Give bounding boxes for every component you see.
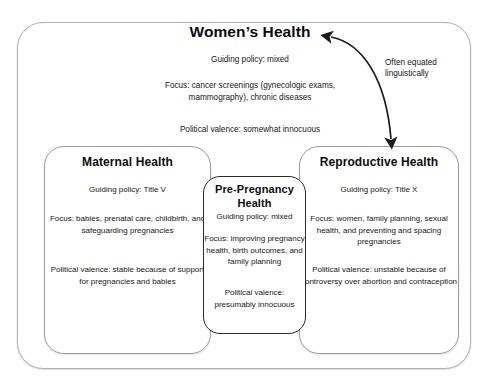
- reproductive-health-focus: Focus: women, family planning, sexual he…: [300, 213, 458, 248]
- maternal-health-title: Maternal Health: [48, 155, 207, 170]
- diagram-canvas: Women’s Health Guiding policy: mixed Foc…: [0, 0, 492, 384]
- womens-health-title: Women’s Health: [140, 23, 360, 41]
- maternal-health-box: [44, 146, 211, 354]
- pre-pregnancy-health-focus: Focus: improving pregnancy health, birth…: [204, 233, 305, 268]
- arrow-annotation-label: Often equated linguistically: [385, 57, 463, 79]
- reproductive-health-title: Reproductive Health: [301, 155, 457, 170]
- reproductive-health-valence: Political valence: unstable because of c…: [300, 264, 458, 287]
- maternal-health-focus: Focus: babies, prenatal care, childbirth…: [47, 213, 208, 236]
- womens-health-focus: Focus: cancer screenings (gynecologic ex…: [140, 80, 360, 103]
- womens-health-policy: Guiding policy: mixed: [150, 54, 350, 65]
- pre-pregnancy-health-policy: Guiding policy: mixed: [205, 211, 304, 222]
- pre-pregnancy-health-title: Pre-Pregnancy Health: [205, 183, 304, 210]
- reproductive-health-policy: Guiding policy: Title X: [301, 184, 457, 195]
- maternal-health-policy: Guiding policy: Title V: [48, 184, 207, 195]
- pre-pregnancy-health-valence: Political valence: presumably innocuous: [204, 287, 305, 310]
- maternal-health-valence: Political valence: stable because of sup…: [49, 264, 206, 287]
- reproductive-health-box: [299, 146, 459, 354]
- womens-health-valence: Political valence: somewhat innocuous: [140, 124, 360, 135]
